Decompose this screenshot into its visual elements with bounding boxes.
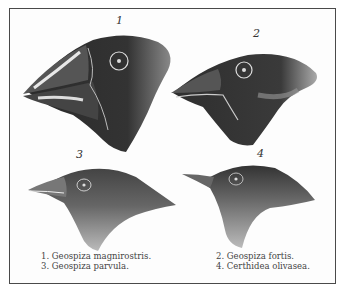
caption-left: 1. Geospiza magnirostris. 3. Geospiza pa… [41,251,151,271]
figure-number-4: 4 [257,147,264,160]
finch-illustration-4 [180,160,330,250]
figure-number-1: 1 [116,14,123,27]
caption-item-3: 3. Geospiza parvula. [41,261,151,271]
figure-number-3: 3 [76,148,83,161]
caption-item-1: 1. Geospiza magnirostris. [41,251,151,261]
caption-right: 2. Geospiza fortis. 4. Certhidea olivase… [216,251,310,271]
figure-number-2: 2 [253,27,260,40]
finch-illustration-3 [26,163,181,253]
caption-item-4: 4. Certhidea olivasea. [216,261,310,271]
finch-illustration-1 [18,30,178,160]
finch-illustration-2 [168,45,333,155]
caption-item-2: 2. Geospiza fortis. [216,251,310,261]
